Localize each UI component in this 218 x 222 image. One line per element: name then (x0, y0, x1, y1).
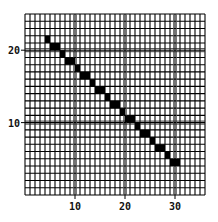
filled-cell (170, 159, 180, 166)
filled-cell (45, 36, 50, 43)
filled-cell (50, 43, 60, 50)
filled-cell (110, 101, 120, 108)
grid-chart: 1020301020 (0, 0, 218, 222)
filled-cell (90, 79, 95, 86)
filled-cell (65, 57, 75, 64)
y-tick-label: 10 (8, 118, 20, 129)
filled-cell (135, 123, 140, 130)
y-tick-label: 20 (8, 45, 20, 56)
x-tick-label: 20 (119, 201, 131, 212)
filled-cell (155, 144, 165, 151)
filled-cell (75, 65, 80, 72)
filled-cell (125, 115, 135, 122)
filled-cell (95, 86, 105, 93)
filled-cell (120, 108, 125, 115)
filled-cell (105, 94, 110, 101)
filled-cell (150, 137, 155, 144)
filled-cell (165, 152, 170, 159)
filled-cell (60, 50, 65, 57)
filled-cell (80, 72, 90, 79)
x-tick-label: 10 (69, 201, 81, 212)
filled-cell (140, 130, 150, 137)
x-tick-label: 30 (169, 201, 181, 212)
